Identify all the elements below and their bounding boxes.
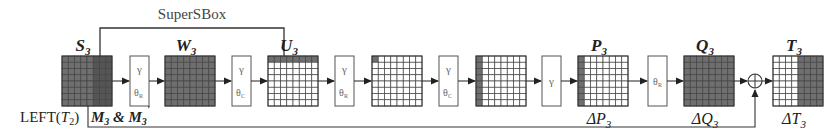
supersbox-label: SuperSBox — [158, 6, 227, 22]
operator-box-op6: θR — [648, 56, 667, 106]
matrix-W3: W3 — [165, 36, 215, 106]
svg-text:LEFT(T2): LEFT(T2) — [20, 109, 79, 127]
matrix-M5 — [372, 56, 422, 106]
operator-box-op2: γθC — [232, 56, 251, 106]
svg-text:γ: γ — [136, 63, 142, 75]
operator-box-op5: γ — [542, 56, 561, 106]
svg-text:γ: γ — [238, 63, 244, 75]
diff-label-T3: ΔT3 — [781, 110, 806, 130]
supersbox-diagram: SuperSBox S3W3U3P3ΔP3Q3ΔQ3T3ΔT3 γθRγθCγθ… — [0, 0, 840, 139]
matrix-label-T3: T3 — [786, 36, 802, 57]
svg-text:M3 & M3': M3 & M3' — [90, 103, 150, 127]
matrix-label-W3: W3 — [176, 36, 197, 57]
matrix-T3: T3ΔT3 — [773, 36, 823, 130]
matrix-U3: U3 — [268, 36, 318, 106]
matrix-Q3: Q3ΔQ3 — [684, 36, 734, 130]
svg-text:γ: γ — [445, 63, 451, 75]
matrix-M6 — [476, 56, 526, 106]
matrix-label-Q3: Q3 — [696, 36, 714, 57]
matrix-P3: P3ΔP3 — [578, 36, 628, 130]
xor-node — [748, 74, 762, 88]
operator-box-op4: γθC — [439, 56, 458, 106]
svg-text:γ: γ — [548, 75, 554, 87]
operator-box-op1: γθR — [130, 56, 149, 106]
m3-label: M3 & M3' — [90, 103, 150, 127]
matrix-label-S3: S3 — [76, 36, 91, 57]
matrix-label-P3: P3 — [590, 36, 607, 57]
operator-box-op3: γθR — [335, 56, 354, 106]
matrix-label-U3: U3 — [280, 36, 298, 57]
left-t2-label: LEFT(T2) — [20, 109, 79, 127]
svg-text:γ: γ — [341, 63, 347, 75]
matrix-S3: S3 — [62, 36, 112, 106]
